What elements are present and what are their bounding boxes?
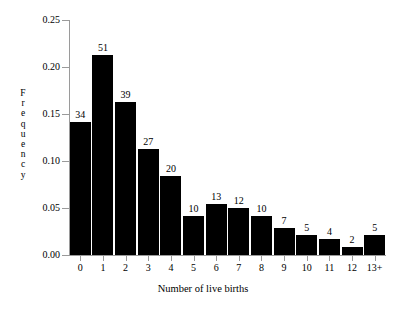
- bar-value-label: 20: [154, 164, 187, 174]
- y-axis-tick-label: 0.05: [28, 203, 60, 213]
- y-axis-tick-label: 0.10: [28, 156, 60, 166]
- bar: [183, 216, 204, 255]
- x-axis-tick-mark: [284, 256, 285, 261]
- x-axis-tick-mark: [261, 256, 262, 261]
- x-axis-tick-mark: [171, 256, 172, 261]
- y-axis-tick-mark: [62, 20, 69, 21]
- y-axis-tick-mark: [62, 67, 69, 68]
- bar: [70, 122, 91, 255]
- bar: [160, 176, 181, 255]
- bar-value-label: 51: [86, 43, 119, 53]
- x-axis-tick-label: 13+: [358, 262, 391, 273]
- x-axis-tick-mark: [239, 256, 240, 261]
- bar: [92, 55, 113, 255]
- x-axis-tick-mark: [375, 256, 376, 261]
- bar: [296, 235, 317, 255]
- y-axis-tick-mark: [62, 161, 69, 162]
- bar-series: [69, 20, 386, 255]
- bar-value-label: 10: [245, 204, 278, 214]
- x-axis-tick-mark: [194, 256, 195, 261]
- bar-value-label: 2: [336, 235, 369, 245]
- y-axis-tick-labels: 0.000.050.100.150.200.25: [28, 0, 60, 309]
- x-axis-tick-mark: [103, 256, 104, 261]
- bar-chart: Frequency 0.000.050.100.150.200.25 34513…: [0, 0, 406, 309]
- y-axis-tick-mark: [62, 255, 69, 256]
- x-axis-tick-mark: [216, 256, 217, 261]
- bar: [115, 102, 136, 255]
- x-axis-tick-mark: [307, 256, 308, 261]
- x-axis-tick-mark: [126, 256, 127, 261]
- x-axis-tick-labels: 012345678910111213+: [69, 262, 386, 276]
- x-axis-tick-mark: [148, 256, 149, 261]
- x-axis-tick-mark: [329, 256, 330, 261]
- x-axis-tick-mark: [352, 256, 353, 261]
- bar: [228, 208, 249, 255]
- bar-value-label: 10: [177, 204, 210, 214]
- y-axis-tick-label: 0.00: [28, 250, 60, 260]
- y-axis-tick-label: 0.25: [28, 15, 60, 25]
- y-axis-tick-label: 0.15: [28, 109, 60, 119]
- bar-value-label: 34: [64, 110, 97, 120]
- y-axis-tick-mark: [62, 208, 69, 209]
- bar: [342, 247, 363, 255]
- y-axis-tick-label: 0.20: [28, 62, 60, 72]
- bar-value-label: 5: [358, 223, 391, 233]
- x-axis-line: [62, 255, 386, 256]
- bar-value-label: 27: [132, 137, 165, 147]
- x-axis-tick-mark: [80, 256, 81, 261]
- bar-value-label: 39: [109, 90, 142, 100]
- x-axis-title: Number of live births: [0, 283, 406, 295]
